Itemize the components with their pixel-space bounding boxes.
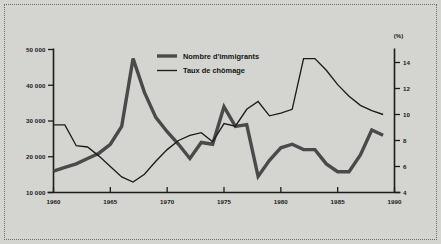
left-axis-tick-label: 20 000	[26, 153, 46, 160]
left-axis-tick-label: 10 000	[26, 189, 46, 196]
chart-series	[54, 58, 384, 182]
series-line-immigrants	[54, 58, 384, 176]
chart-legend: Nombre d'immigrantsTaux de chômage	[157, 52, 259, 75]
x-axis-tick-label: 1975	[217, 198, 232, 205]
legend-label-immigrants: Nombre d'immigrants	[183, 52, 259, 61]
right-axis-tick-label: 12	[403, 85, 411, 92]
chart-container: 10 00020 00030 00040 00050 000468101214(…	[0, 0, 441, 244]
right-axis-tick-label: 6	[403, 163, 407, 170]
x-axis-tick-label: 1960	[46, 198, 61, 205]
right-axis-tick-label: 8	[403, 137, 407, 144]
legend-label-unemployment: Taux de chômage	[183, 66, 245, 75]
x-axis-tick-label: 1965	[103, 198, 118, 205]
left-axis-tick-label: 30 000	[26, 117, 46, 124]
x-axis-tick-label: 1985	[331, 198, 346, 205]
left-axis-tick-label: 40 000	[26, 82, 46, 89]
line-chart: 10 00020 00030 00040 00050 000468101214(…	[0, 0, 441, 244]
right-axis-unit-label: (%)	[394, 33, 403, 39]
right-axis-tick-label: 14	[403, 59, 411, 66]
x-axis-tick-label: 1980	[274, 198, 289, 205]
x-axis-tick-label: 1990	[387, 198, 402, 205]
right-axis-tick-label: 10	[403, 111, 411, 118]
right-axis-tick-label: 4	[403, 189, 407, 196]
x-axis-tick-label: 1970	[160, 198, 175, 205]
left-axis-tick-label: 50 000	[26, 46, 46, 53]
